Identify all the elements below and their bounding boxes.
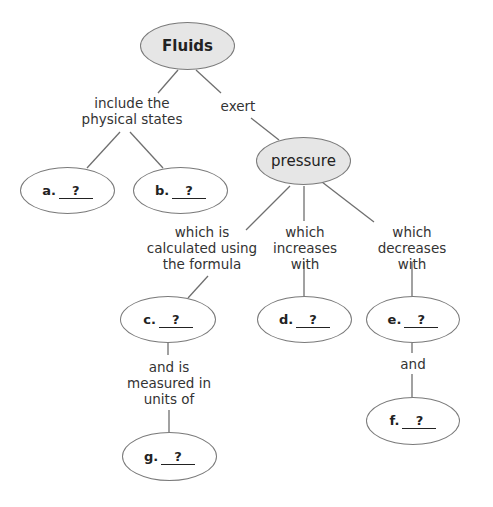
node-fluids-label: Fluids — [162, 37, 213, 55]
line-include-b — [130, 132, 163, 168]
link-exert: exert — [221, 98, 256, 114]
link-and: and — [400, 356, 425, 372]
node-pressure-label: pressure — [271, 152, 336, 170]
node-f-letter: f. — [390, 413, 400, 428]
link-increases: which increases with — [273, 224, 337, 272]
link-include: include the physical states — [82, 95, 183, 127]
node-b[interactable]: b.? — [133, 167, 228, 214]
node-e-letter: e. — [388, 312, 402, 327]
node-e[interactable]: e.? — [366, 296, 460, 343]
node-a-letter: a. — [42, 183, 56, 198]
node-e-blank[interactable]: ? — [404, 313, 438, 328]
node-a[interactable]: a.? — [20, 167, 115, 214]
node-d[interactable]: d.? — [257, 296, 352, 343]
node-d-letter: d. — [279, 312, 293, 327]
line-include-a — [87, 132, 120, 168]
node-g-blank[interactable]: ? — [161, 450, 195, 465]
node-c-letter: c. — [143, 312, 156, 327]
line-exert-pressure — [251, 118, 279, 140]
node-c-blank[interactable]: ? — [159, 313, 193, 328]
link-measured: and is measured in units of — [127, 359, 211, 407]
line-fluids-exert — [196, 70, 221, 93]
node-d-blank[interactable]: ? — [296, 313, 330, 328]
link-calculated: which is calculated using the formula — [147, 224, 257, 272]
node-b-letter: b. — [155, 183, 169, 198]
node-f[interactable]: f.? — [366, 397, 460, 445]
line-fluids-include — [158, 70, 178, 93]
node-g[interactable]: g.? — [122, 432, 217, 481]
node-f-blank[interactable]: ? — [402, 414, 436, 429]
node-b-blank[interactable]: ? — [172, 184, 206, 199]
line-calculated-c — [188, 276, 208, 298]
node-c[interactable]: c.? — [120, 296, 216, 343]
node-a-blank[interactable]: ? — [59, 184, 93, 199]
node-g-letter: g. — [144, 449, 158, 464]
line-pressure-decreases — [322, 182, 374, 222]
node-fluids: Fluids — [140, 22, 235, 70]
node-pressure: pressure — [256, 137, 351, 185]
link-decreases: which decreases with — [378, 224, 447, 272]
